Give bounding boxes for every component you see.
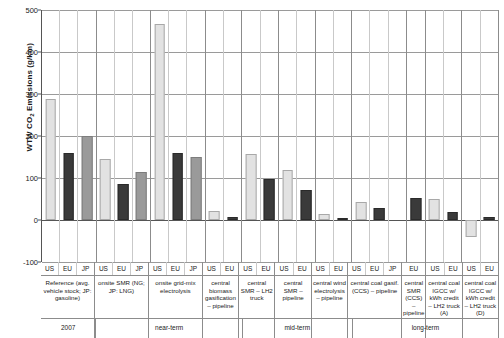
region-code-us: US [149,262,167,275]
pathway-label: central coal gasif. (CCS) – pipeline [348,276,401,294]
region-code-row: USEU [203,262,238,276]
y-tick-label: 200 [4,132,38,141]
bar-eu[interactable] [484,217,495,220]
pathway-label: central coal IGCC w/ kWh credit – LH2 tr… [426,276,461,317]
region-code-us: US [426,262,444,275]
region-code-eu: EU [113,262,131,275]
region-code-row: USEUJP [95,262,148,276]
bar-cell [169,10,187,262]
bar-eu[interactable] [118,184,129,220]
y-tick-label: 400 [4,48,38,57]
region-code-row: USEU [239,262,274,276]
region-code-row: USEUJP [41,262,94,276]
bar-eu[interactable] [63,153,74,220]
bar-cell [279,10,297,262]
region-code-row: USEU [312,262,347,276]
bar-cell [316,10,334,262]
bar-us[interactable] [282,170,293,220]
bar-us[interactable] [100,159,111,220]
bar-cell [389,10,406,262]
region-code-row: USEU [463,262,498,276]
bar-cell [370,10,388,262]
region-code-eu: EU [445,262,462,275]
bar-group [426,10,463,262]
bar-group [42,10,97,262]
region-code-eu: EU [402,262,425,275]
region-code-us: US [348,262,366,275]
bar-cell [206,10,224,262]
bar-us[interactable] [429,199,440,220]
bar-cell [224,10,241,262]
era-label: 2007 [41,318,96,338]
bar-cell [444,10,461,262]
bar-cell [242,10,260,262]
bar-us[interactable] [45,99,56,220]
wtw-co2-emissions-bar-chart: WTW CO2 Emissions (g/km) 500400300200100… [0,0,504,338]
bar-us[interactable] [246,154,257,220]
bar-cell [407,10,425,262]
pathway-label: central wind electrolysis – pipeline [312,276,347,302]
bar-cell [297,10,314,262]
bar-us[interactable] [466,220,477,237]
bar-cell [78,10,95,262]
bar-jp[interactable] [136,172,147,220]
region-code-us: US [239,262,257,275]
plot-area [41,10,499,262]
y-tick-label: 0 [4,216,38,225]
bar-cell [187,10,204,262]
region-code-jp: JP [77,262,94,275]
region-code-jp: JP [384,262,401,275]
bar-cell [462,10,480,262]
bar-cell [261,10,278,262]
y-tick-label: -100 [4,258,38,267]
bar-eu[interactable] [264,179,275,220]
bar-group [316,10,353,262]
region-code-eu: EU [59,262,77,275]
bar-eu[interactable] [410,198,421,220]
region-code-eu: EU [294,262,311,275]
y-axis-ticks: 5004003002001000-100 [0,0,38,338]
region-code-us: US [203,262,221,275]
bar-eu[interactable] [337,218,348,220]
region-code-row: USEU [275,262,310,276]
y-tick-label: 100 [4,174,38,183]
y-tick-label: 300 [4,90,38,99]
bar-eu[interactable] [447,212,458,220]
bar-us[interactable] [319,214,330,220]
bar-us[interactable] [356,202,367,220]
pathway-label: onsite grid-mix electrolysis [149,276,202,294]
region-code-row: USEUJP [149,262,202,276]
bar-jp[interactable] [191,157,202,220]
region-code-eu: EU [366,262,384,275]
bar-eu[interactable] [374,208,385,220]
region-code-us: US [41,262,59,275]
bar-cell [352,10,370,262]
bar-group [97,10,152,262]
region-code-us: US [312,262,330,275]
bar-eu[interactable] [227,217,238,220]
bar-cell [426,10,444,262]
bar-eu[interactable] [172,153,183,220]
bar-us[interactable] [209,211,220,220]
region-code-row: EU [402,262,425,276]
region-code-eu: EU [481,262,498,275]
pathway-label: central coal IGCC w/ kWh credit – LH2 tr… [463,276,498,317]
bar-group [206,10,243,262]
bar-group [352,10,407,262]
era-label: mid-term [243,318,353,338]
bar-cell [42,10,60,262]
bar-cell [133,10,150,262]
bar-jp[interactable] [82,136,93,220]
era-label: long-term [353,318,499,338]
bar-us[interactable] [154,24,165,220]
pathway-label: Reference (avg. vehicle stock; JP: gasol… [41,276,94,302]
bar-group [279,10,316,262]
bar-group [242,10,279,262]
pathway-label: central SMR – pipeline [275,276,310,302]
pathway-label: central SMR (CCS) – pipeline [402,276,425,317]
pathway-label: onsite SMR (NG; JP: LNG) [95,276,148,294]
region-code-us: US [275,262,293,275]
bar-cell [481,10,498,262]
region-code-eu: EU [221,262,238,275]
bar-eu[interactable] [301,190,312,220]
